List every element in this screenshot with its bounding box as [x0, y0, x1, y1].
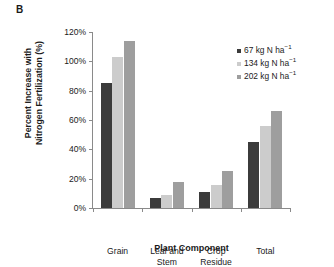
y-axis-tick-label: 20% — [69, 174, 86, 183]
bar — [248, 142, 259, 208]
x-axis-tick-mark — [192, 208, 193, 212]
y-axis-title-line-2: Nitrogen Fertilization (%) — [34, 13, 45, 173]
y-axis-tick-mark — [89, 91, 93, 92]
y-axis-title-line-1: Percent Increase with — [23, 13, 34, 173]
y-axis-tick-label: 60% — [69, 116, 86, 125]
legend-item: 134 kg N ha−1 — [237, 56, 296, 69]
bar — [260, 126, 271, 208]
bar — [161, 195, 172, 208]
legend-label: 202 kg N ha−1 — [244, 71, 296, 81]
x-axis-tick-mark — [241, 208, 242, 212]
legend-swatch-icon — [237, 62, 241, 66]
bar — [112, 57, 123, 208]
y-axis-tick-label: 40% — [69, 145, 86, 154]
legend-label: 134 kg N ha−1 — [244, 58, 296, 68]
bar — [211, 185, 222, 208]
legend-label: 67 kg N ha−1 — [244, 45, 292, 55]
x-axis-tick-mark — [93, 208, 94, 212]
y-axis-tick-mark — [89, 61, 93, 62]
y-axis-tick-label: 120% — [64, 28, 86, 37]
y-axis-tick-mark — [89, 149, 93, 150]
legend-item: 67 kg N ha−1 — [237, 43, 296, 56]
y-axis-tick-mark — [89, 32, 93, 33]
y-axis-tick-label: 0% — [74, 204, 86, 213]
x-axis-tick-mark — [142, 208, 143, 212]
legend-swatch-icon — [237, 75, 241, 79]
bar — [222, 171, 233, 208]
bar — [150, 198, 161, 208]
legend-swatch-icon — [237, 49, 241, 53]
bar — [271, 111, 282, 208]
bar — [124, 41, 135, 208]
figure-panel-b: B 0%20%40%60%80%100%120%GrainLeaf and St… — [0, 0, 334, 267]
bar — [101, 83, 112, 208]
legend-item: 202 kg N ha−1 — [237, 69, 296, 82]
y-axis-tick-mark — [89, 120, 93, 121]
x-axis-title: Plant Component — [93, 243, 290, 253]
y-axis-tick-label: 80% — [69, 86, 86, 95]
legend: 67 kg N ha−1134 kg N ha−1202 kg N ha−1 — [237, 43, 296, 82]
bar — [173, 182, 184, 208]
y-axis-tick-mark — [89, 179, 93, 180]
y-axis-title: Percent Increase with Nitrogen Fertiliza… — [23, 13, 45, 173]
y-axis-tick-label: 100% — [64, 57, 86, 66]
x-axis-tick-mark — [290, 208, 291, 212]
bar — [199, 192, 210, 208]
